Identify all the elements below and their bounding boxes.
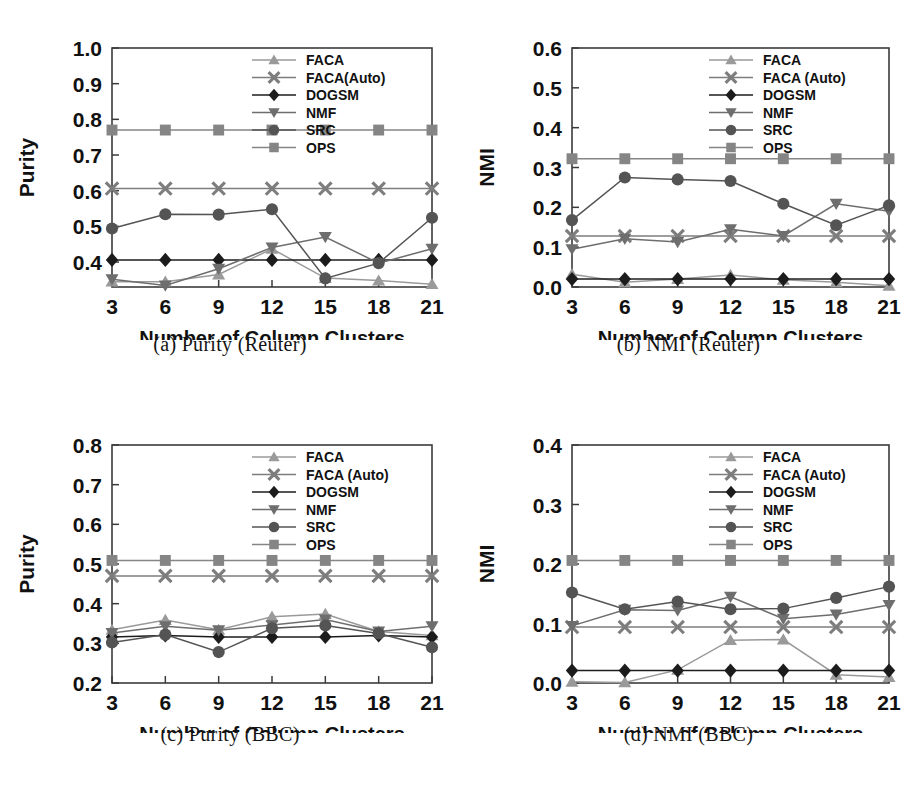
- circle-marker: [159, 629, 171, 641]
- circle-marker: [373, 627, 385, 639]
- diamond-marker: [106, 253, 118, 267]
- circle-marker: [106, 636, 118, 648]
- square-marker: [725, 555, 736, 566]
- diamond-marker: [883, 663, 895, 677]
- legend-label: OPS: [306, 140, 336, 156]
- square-marker: [320, 555, 331, 566]
- diamond-marker: [269, 486, 280, 498]
- circle-marker: [883, 581, 895, 593]
- circle-marker: [777, 198, 789, 210]
- x-tick-label: 18: [824, 295, 848, 318]
- series-square: [567, 555, 895, 566]
- legend-label: DOGSM: [763, 484, 816, 500]
- series-square: [107, 555, 438, 566]
- y-tick-label: 0.5: [533, 77, 563, 100]
- square-marker: [269, 540, 279, 550]
- x-tick-label: 12: [260, 295, 283, 318]
- square-marker: [267, 555, 278, 566]
- x-tick-label: 18: [367, 295, 391, 318]
- square-marker: [619, 555, 630, 566]
- circle-marker: [373, 257, 385, 269]
- circle-marker: [319, 619, 331, 631]
- diamond-marker: [566, 272, 578, 286]
- diamond-marker: [319, 253, 331, 267]
- legend-label: SRC: [763, 122, 793, 138]
- square-marker: [160, 555, 171, 566]
- square-marker: [778, 555, 789, 566]
- y-tick-label: 0.5: [73, 553, 103, 576]
- panel-a: 1.00.90.80.70.60.50.436912151821PurityNu…: [0, 0, 460, 393]
- legend-label: NMF: [763, 105, 794, 121]
- series-circle: [566, 171, 895, 231]
- series-square: [567, 153, 895, 164]
- square-marker: [213, 555, 224, 566]
- caption-a: (a) Purity (Reuter): [0, 333, 460, 356]
- x-tick-label: 21: [420, 295, 444, 318]
- circle-marker: [426, 212, 438, 224]
- legend-label: OPS: [763, 140, 793, 156]
- circle-marker: [269, 522, 280, 533]
- diamond-marker: [266, 253, 278, 267]
- diamond-marker: [724, 663, 736, 677]
- x-tick-label: 3: [106, 691, 118, 714]
- legend-label: FACA (Auto): [763, 467, 846, 483]
- caption-d: (d) NMI (BBC): [460, 723, 917, 746]
- square-marker: [107, 125, 118, 136]
- x-tick-label: 6: [159, 295, 171, 318]
- diamond-marker: [159, 253, 171, 267]
- legend-label: NMF: [306, 105, 337, 121]
- caption-b: (b) NMI (Reuter): [460, 333, 917, 356]
- diamond-marker: [566, 663, 578, 677]
- x-tick-label: 21: [877, 295, 901, 318]
- y-tick-label: 0.4: [73, 251, 103, 274]
- square-marker: [831, 153, 842, 164]
- circle-marker: [426, 641, 438, 653]
- diamond-marker: [883, 272, 895, 286]
- plot-svg: 0.40.30.20.10.036912151821NMINumber of C…: [460, 393, 917, 733]
- legend-label: NMF: [306, 502, 337, 518]
- legend-label: FACA (Auto): [306, 467, 389, 483]
- triangle-down-marker: [565, 244, 578, 255]
- square-marker: [427, 555, 438, 566]
- circle-marker: [213, 646, 225, 658]
- x-tick-label: 18: [824, 691, 848, 714]
- legend-label: FACA (Auto): [763, 70, 846, 86]
- square-marker: [567, 153, 578, 164]
- plot-svg: 0.80.70.60.50.40.30.236912151821PurityNu…: [0, 393, 460, 733]
- legend-label: SRC: [763, 519, 793, 535]
- legend: FACAFACA (Auto)DOGSMNMFSRCOPS: [709, 52, 846, 156]
- plot-svg: 0.60.50.40.30.20.10.036912151821NMINumbe…: [460, 0, 917, 340]
- y-tick-label: 0.7: [73, 474, 102, 497]
- square-marker: [672, 153, 683, 164]
- x-tick-label: 15: [314, 691, 338, 714]
- series-cross-x: [106, 182, 438, 194]
- x-tick-label: 6: [619, 295, 631, 318]
- diamond-marker: [269, 89, 280, 101]
- x-tick-label: 15: [772, 691, 796, 714]
- x-tick-label: 3: [566, 295, 578, 318]
- series-cross-x: [106, 570, 438, 582]
- circle-marker: [724, 603, 736, 615]
- legend: FACAFACA (Auto)DOGSMNMFSRCOPS: [252, 449, 389, 553]
- legend-label: DOGSM: [763, 87, 816, 103]
- x-tick-label: 9: [672, 295, 684, 318]
- y-axis-label: Purity: [15, 534, 38, 594]
- circle-marker: [319, 272, 331, 284]
- diamond-marker: [777, 663, 789, 677]
- x-tick-label: 12: [719, 691, 742, 714]
- y-tick-label: 0.4: [533, 434, 563, 457]
- square-marker: [726, 540, 736, 550]
- y-tick-label: 0.4: [73, 593, 103, 616]
- x-tick-label: 6: [159, 691, 171, 714]
- x-tick-label: 3: [106, 295, 118, 318]
- circle-marker: [830, 592, 842, 604]
- circle-marker: [159, 208, 171, 220]
- square-marker: [373, 555, 384, 566]
- legend-label: NMF: [763, 502, 794, 518]
- y-axis-label: NMI: [475, 148, 498, 187]
- y-tick-label: 0.3: [533, 157, 562, 180]
- y-tick-label: 0.0: [533, 276, 562, 299]
- square-marker: [427, 125, 438, 136]
- square-marker: [213, 125, 224, 136]
- legend-label: FACA: [763, 449, 801, 465]
